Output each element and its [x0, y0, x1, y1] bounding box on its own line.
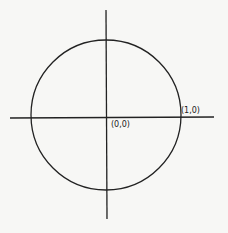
unit-circle-diagram: (0,0) (1,0): [0, 0, 228, 233]
origin-label: (0,0): [111, 120, 130, 129]
x-axis: [10, 117, 214, 118]
point-1-0-label: (1,0): [181, 106, 200, 115]
diagram-drawing: [0, 0, 228, 233]
y-axis: [106, 10, 107, 219]
